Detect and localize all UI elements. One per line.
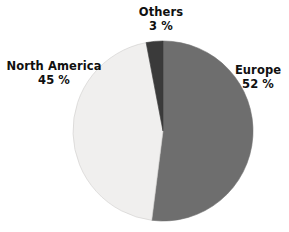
pie-label-europe-name: Europe <box>228 64 288 78</box>
pie-label-north-america: North America 45 % <box>2 60 106 87</box>
pie-label-north-america-name: North America <box>2 60 106 74</box>
pie-chart: Others 3 % North America 45 % Europe 52 … <box>0 0 289 232</box>
pie-chart-canvas <box>0 0 289 232</box>
pie-label-north-america-value: 45 % <box>2 74 106 88</box>
pie-label-others-name: Others <box>116 6 206 20</box>
pie-label-europe-value: 52 % <box>228 78 288 92</box>
pie-label-others-value: 3 % <box>116 20 206 34</box>
pie-label-europe: Europe 52 % <box>228 64 288 91</box>
pie-label-others: Others 3 % <box>116 6 206 33</box>
